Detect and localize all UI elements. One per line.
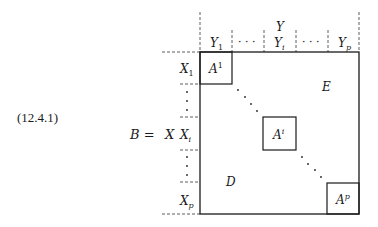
matrix-figure: (12.4.1) B = X Y Y1 · · · Yi · · · Yp X1… (0, 0, 378, 227)
block-label-ap: Ap (335, 192, 350, 207)
row-label-xp: Xp (179, 194, 194, 210)
block-label-ai: Ai (272, 127, 285, 142)
row-label-x1: X1 (179, 62, 194, 78)
col-label-yp: Yp (338, 36, 351, 52)
lower-region-label: D (225, 175, 236, 189)
col-ellipsis-1: · · · (238, 36, 255, 49)
col-ellipsis-2: · · · (302, 36, 319, 49)
row-label-xi: Xi (179, 128, 192, 144)
col-label-yi: Yi (274, 36, 285, 52)
equation-number: (12.4.1) (17, 110, 58, 125)
block-label-a1: A1 (208, 61, 223, 76)
row-group-label: X (164, 127, 175, 142)
lhs-label: B = (129, 127, 155, 142)
upper-region-label: E (321, 80, 331, 94)
col-label-y1: Y1 (210, 36, 223, 52)
block-matrix-diagram: (12.4.1) B = X Y Y1 · · · Yi · · · Yp X1… (0, 0, 378, 227)
col-group-label: Y (276, 20, 285, 34)
